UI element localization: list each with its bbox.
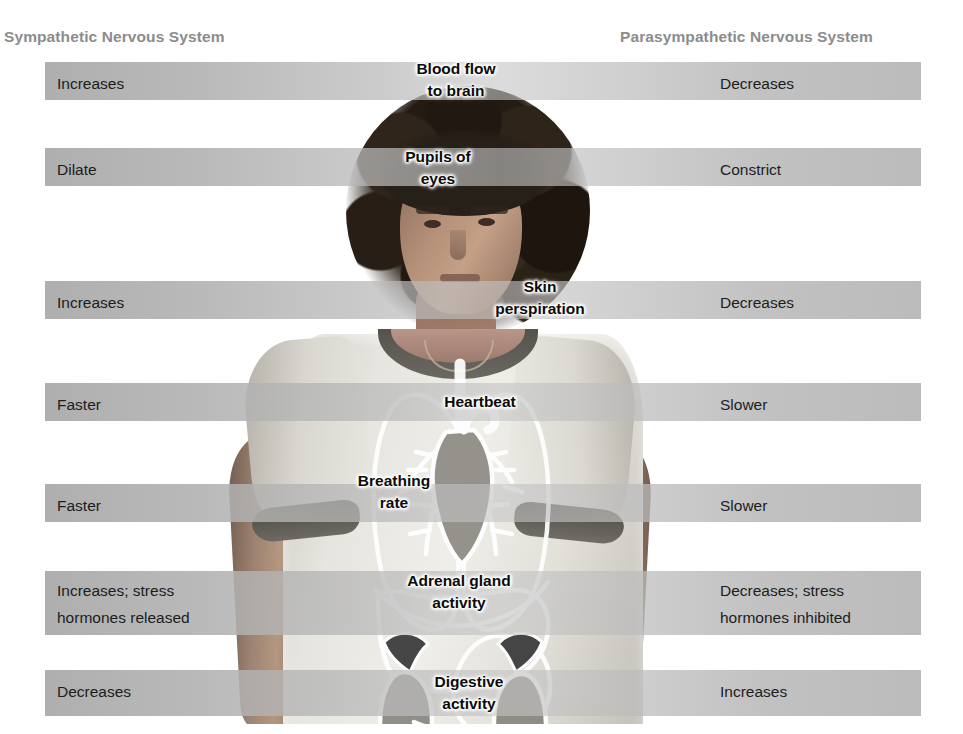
callout-digestive-activity: Digestive activity [374,671,564,715]
left-eye [424,220,441,228]
callout-blood-flow-to-brain: Blood flow to brain [368,58,544,102]
right-eye [478,218,495,226]
parasympathetic-value-pupils: Constrict [720,156,781,183]
eyebrows [416,206,508,214]
parasympathetic-value-digestive: Increases [720,678,787,705]
sympathetic-value-heartbeat: Faster [57,391,101,418]
sympathetic-value-blood-flow: Increases [57,70,124,97]
parasympathetic-value-heartbeat: Slower [720,391,767,418]
sympathetic-value-pupils: Dilate [57,156,97,183]
callout-breathing-rate: Breathing rate [306,470,482,514]
parasympathetic-value-perspiration: Decreases [720,289,794,316]
parasympathetic-column-header: Parasympathetic Nervous System [620,28,873,46]
callout-adrenal-gland-activity: Adrenal gland activity [354,570,564,614]
callout-skin-perspiration: Skin perspiration [452,276,628,320]
sympathetic-value-perspiration: Increases [57,289,124,316]
sympathetic-column-header: Sympathetic Nervous System [4,28,225,46]
autonomic-nervous-system-figure: Sympathetic Nervous System Parasympathet… [0,0,963,734]
sympathetic-value-breathing: Faster [57,492,101,519]
nose [450,230,466,260]
callout-heartbeat: Heartbeat [392,391,568,413]
sympathetic-value-adrenal: Increases; stress hormones released [57,577,190,631]
parasympathetic-value-breathing: Slower [720,492,767,519]
callout-pupils-of-eyes: Pupils of eyes [350,146,526,190]
row-band [45,484,921,522]
parasympathetic-value-blood-flow: Decreases [720,70,794,97]
sympathetic-value-digestive: Decreases [57,678,131,705]
parasympathetic-value-adrenal: Decreases; stress hormones inhibited [720,577,851,631]
